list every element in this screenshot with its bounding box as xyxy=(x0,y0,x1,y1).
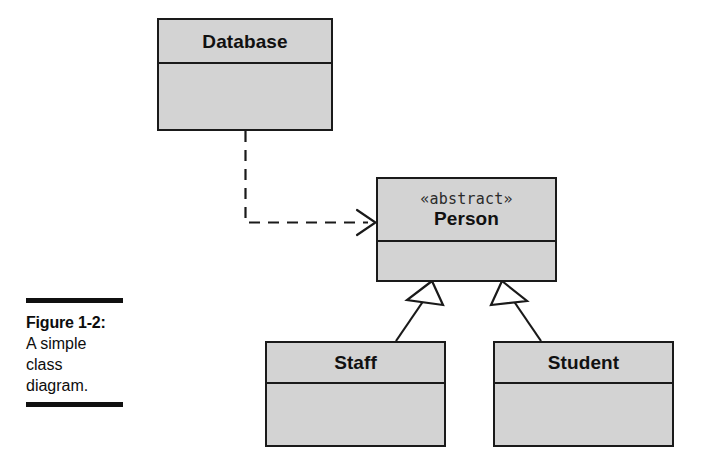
open-arrowhead-icon xyxy=(357,210,376,235)
uml-class-person[interactable]: «abstract» Person xyxy=(376,177,557,282)
class-header-database: Database xyxy=(159,20,331,64)
caption-line-1: A simple xyxy=(26,333,130,354)
dependency-dashed-line xyxy=(246,131,369,223)
caption-rule-bottom xyxy=(26,402,123,407)
relationship-database-to-person xyxy=(246,131,376,235)
class-header-staff: Staff xyxy=(267,343,444,384)
caption-text: Figure 1-2: A simple class diagram. xyxy=(26,312,130,396)
caption-label: Figure 1-2: xyxy=(26,312,130,333)
hollow-triangle-icon xyxy=(407,281,443,305)
class-name-student: Student xyxy=(548,352,619,373)
uml-class-student[interactable]: Student xyxy=(493,341,674,447)
class-body-staff xyxy=(267,384,444,445)
hollow-triangle-icon xyxy=(491,281,527,305)
class-stereotype-person: «abstract» xyxy=(420,190,512,208)
relationship-staff-to-person xyxy=(396,281,443,341)
class-body-student xyxy=(495,384,672,445)
generalization-line-student xyxy=(513,300,541,341)
class-header-person: «abstract» Person xyxy=(378,179,555,242)
caption-line-2: class xyxy=(26,354,130,375)
class-name-staff: Staff xyxy=(334,352,377,373)
class-body-person xyxy=(378,242,555,280)
class-body-database xyxy=(159,64,331,129)
figure-container: Database «abstract» Person Staff Student… xyxy=(0,0,707,458)
class-name-database: Database xyxy=(202,31,287,52)
figure-caption: Figure 1-2: A simple class diagram. xyxy=(26,298,130,407)
class-header-student: Student xyxy=(495,343,672,384)
generalization-line-staff xyxy=(396,300,424,341)
class-name-person: Person xyxy=(434,208,499,229)
caption-rule-top xyxy=(26,298,123,303)
uml-class-staff[interactable]: Staff xyxy=(265,341,446,447)
relationship-student-to-person xyxy=(491,281,541,341)
uml-class-database[interactable]: Database xyxy=(157,18,333,131)
caption-line-3: diagram. xyxy=(26,375,130,396)
